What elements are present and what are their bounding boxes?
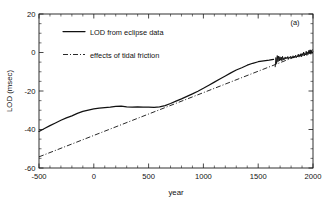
x-tick-label: 500 — [142, 172, 155, 181]
data-series — [39, 50, 313, 157]
x-tick-label: 1500 — [250, 172, 267, 181]
y-tick-label: -40 — [25, 125, 36, 134]
plot-frame — [39, 14, 313, 168]
series-line — [39, 50, 313, 157]
axis-ticks — [39, 14, 313, 168]
panel-label: (a) — [290, 18, 299, 27]
axis-tick-labels: -5000500100015002000-60-40-20020 — [25, 10, 322, 181]
x-tick-label: 0 — [92, 172, 96, 181]
lod-line-chart: -5000500100015002000-60-40-20020 year LO… — [0, 0, 333, 213]
y-tick-label: -20 — [25, 87, 36, 96]
series-line — [39, 59, 274, 131]
x-tick-label: -500 — [31, 172, 46, 181]
y-tick-label: 0 — [31, 48, 35, 57]
x-axis-title: year — [168, 188, 184, 197]
x-tick-label: 2000 — [305, 172, 322, 181]
legend-label-eclipse: LOD from eclipse data — [90, 28, 164, 37]
chart-legend: LOD from eclipse data effects of tidal f… — [63, 28, 164, 60]
x-tick-label: 1000 — [195, 172, 212, 181]
y-tick-label: 20 — [27, 10, 35, 19]
y-tick-label: -60 — [25, 164, 36, 173]
chart-figure: -5000500100015002000-60-40-20020 year LO… — [0, 0, 333, 213]
y-axis-title: LOD (msec) — [5, 70, 14, 112]
legend-label-tidal-friction: effects of tidal friction — [90, 51, 159, 60]
